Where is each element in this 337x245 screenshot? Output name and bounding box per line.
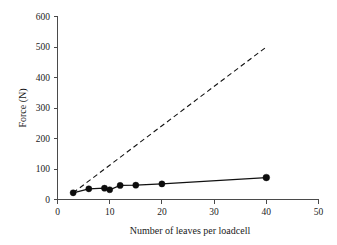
data-point <box>159 181 165 187</box>
x-axis-title: Number of leaves per loadcell <box>130 225 251 236</box>
y-tick-label: 400 <box>36 73 51 83</box>
y-tick-label: 0 <box>45 195 50 205</box>
x-tick-label: 40 <box>262 207 272 217</box>
x-tick-label: 0 <box>55 207 60 217</box>
data-point <box>107 187 113 193</box>
y-axis-title: Force (N) <box>17 88 29 127</box>
data-point <box>86 186 92 192</box>
chart-background <box>0 0 337 245</box>
data-point <box>133 182 139 188</box>
chart-figure: 0 100 200 300 400 500 600 0 10 20 30 40 … <box>0 0 337 245</box>
data-point <box>117 182 123 188</box>
x-tick-label: 20 <box>157 207 167 217</box>
y-tick-label: 500 <box>36 42 51 52</box>
y-tick-label: 600 <box>36 12 51 22</box>
x-tick-label: 30 <box>209 207 219 217</box>
x-tick-label: 50 <box>314 207 324 217</box>
data-point <box>70 190 76 196</box>
y-tick-label: 100 <box>36 164 51 174</box>
force-vs-leaves-chart: 0 100 200 300 400 500 600 0 10 20 30 40 … <box>0 0 337 245</box>
data-point <box>263 174 270 181</box>
x-tick-label: 10 <box>105 207 115 217</box>
y-tick-label: 200 <box>36 134 51 144</box>
y-tick-label: 300 <box>36 103 51 113</box>
